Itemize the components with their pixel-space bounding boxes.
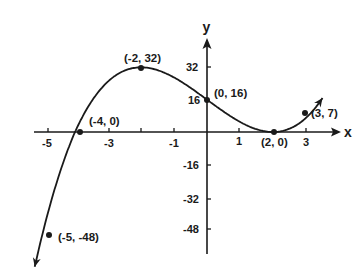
point-label: (0, 16) (214, 87, 247, 99)
y-axis-label: y (203, 19, 211, 35)
point-marker (204, 97, 210, 103)
x-tick-label: 1 (236, 135, 242, 147)
x-tick-label: -3 (104, 137, 114, 149)
data-points (46, 65, 308, 238)
y-tick-label: 16 (188, 94, 200, 106)
y-tick-label: -32 (183, 193, 199, 205)
point-marker (77, 129, 83, 135)
x-axis-label: x (344, 124, 352, 140)
point-label: (2, 0) (261, 136, 288, 148)
y-tick-label: -48 (183, 223, 199, 235)
x-tick-label: 3 (303, 136, 309, 148)
function-graph: x -5 -3 -1 1 3 y 32 16 -16 -32 -48 (0, 0, 364, 280)
x-axis: x -5 -3 -1 1 3 (34, 124, 352, 149)
x-tick-label: -1 (169, 137, 179, 149)
x-tick-label: -5 (42, 137, 52, 149)
point-marker (302, 110, 308, 116)
y-axis: y 32 16 -16 -32 -48 (183, 19, 212, 254)
point-label: (3, 7) (311, 107, 338, 119)
point-label: (-2, 32) (124, 52, 161, 64)
point-label: (-4, 0) (89, 115, 120, 127)
y-tick-label: -16 (183, 159, 199, 171)
y-tick-label: 32 (186, 61, 198, 73)
point-marker (271, 129, 277, 135)
point-label: (-5, -48) (58, 231, 99, 243)
point-marker (46, 232, 52, 238)
point-marker (138, 65, 144, 71)
